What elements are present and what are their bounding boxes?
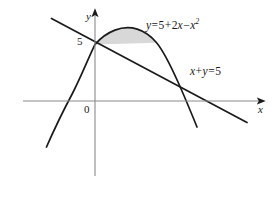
y-axis-label: y: [86, 11, 91, 22]
math-figure: y x 5 0 y=5+2x−x2 x+y=5: [0, 0, 278, 206]
line-eq-plus: +: [195, 65, 203, 77]
line-equation-label: x+y=5: [190, 66, 221, 78]
parabola-curve: [47, 28, 198, 147]
y-intercept-tick-label: 5: [77, 36, 83, 47]
parabola-eq-equals: =: [151, 19, 159, 31]
line-eq-value: 5: [215, 65, 221, 77]
x-axis-label: x: [258, 104, 263, 115]
parabola-eq-linear-var: x: [178, 19, 183, 31]
parabola-eq-exponent: 2: [195, 17, 199, 26]
parabola-equation-label: y=5+2x−x2: [146, 20, 199, 32]
plot-canvas: [0, 0, 278, 206]
parabola-eq-plus: +: [164, 19, 172, 31]
line-eq-y: y: [203, 65, 208, 77]
origin-label: 0: [84, 104, 90, 115]
